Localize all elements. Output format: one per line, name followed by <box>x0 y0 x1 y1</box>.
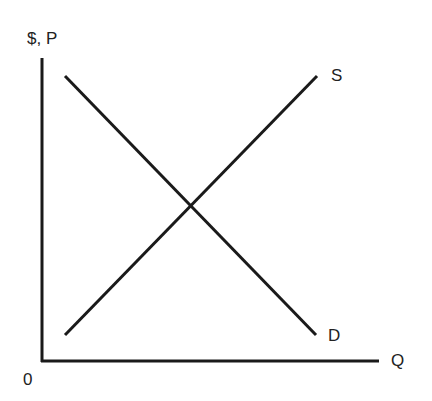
supply-label: S <box>331 67 342 84</box>
y-axis-label: $, P <box>27 30 57 47</box>
demand-label: D <box>328 327 340 344</box>
x-axis-label: Q <box>391 352 404 369</box>
origin-label: 0 <box>23 371 32 388</box>
supply-demand-diagram <box>0 0 432 401</box>
